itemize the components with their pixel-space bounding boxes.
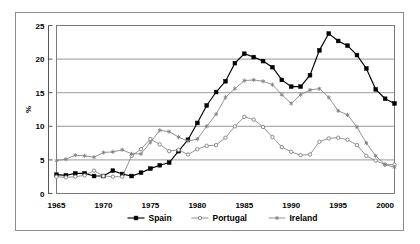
legend-label: Ireland (290, 213, 318, 223)
data-point-marker (327, 32, 331, 36)
y-tick-label: 10 (36, 122, 45, 131)
chart-figure: 0510152025 19651970197519801985199019952… (0, 0, 420, 244)
series-spain (55, 32, 397, 178)
x-tick-label: 1965 (48, 201, 66, 210)
data-point-marker (365, 154, 368, 157)
data-point-marker (317, 48, 321, 52)
series-line (57, 34, 395, 176)
data-point-marker (252, 118, 255, 121)
data-point-marker (318, 140, 321, 143)
data-point-marker (290, 150, 293, 153)
data-point-marker (139, 147, 142, 150)
data-point-marker (139, 171, 143, 175)
y-tick-label: 5 (40, 156, 45, 165)
y-tick-label: 20 (36, 55, 45, 64)
x-tick-label: 1970 (95, 201, 113, 210)
data-point-marker (205, 144, 208, 147)
data-point-marker (130, 174, 134, 178)
data-point-marker (198, 216, 201, 219)
x-tick-label: 1995 (329, 201, 347, 210)
data-point-marker (243, 115, 246, 118)
data-point-marker (55, 175, 58, 178)
y-tick-label: 15 (36, 89, 45, 98)
data-point-marker (134, 216, 138, 220)
data-point-marker (167, 149, 170, 152)
data-point-marker (261, 125, 264, 128)
data-point-marker (92, 169, 95, 172)
y-tick-label: 0 (40, 190, 45, 199)
data-point-marker (74, 175, 77, 178)
x-tick-label: 2000 (376, 201, 394, 210)
data-point-marker (299, 153, 302, 156)
data-point-marker (336, 136, 339, 139)
data-point-marker (280, 78, 284, 82)
data-point-marker (364, 67, 368, 71)
plot-border-rect (57, 26, 395, 194)
y-axis-title-text: % (24, 106, 33, 113)
data-point-marker (233, 61, 237, 65)
data-point-marker (214, 90, 218, 94)
y-axis-title: % (24, 106, 33, 113)
series-ireland (55, 78, 397, 170)
data-point-marker (393, 102, 397, 106)
line-chart: 0510152025 19651970197519801985199019952… (0, 0, 420, 244)
data-point-marker (308, 73, 312, 77)
data-point-marker (336, 39, 340, 43)
data-point-marker (158, 143, 161, 146)
legend-item-portugal[interactable]: Portugal (192, 213, 247, 223)
y-tick-label: 25 (36, 22, 45, 31)
legend-item-spain[interactable]: Spain (128, 213, 172, 223)
y-axis-line (49, 26, 53, 195)
y-axis-tick-labels: 0510152025 (36, 22, 45, 199)
data-point-marker (83, 174, 86, 177)
data-point-marker (186, 153, 189, 156)
data-point-marker (327, 137, 330, 140)
data-point-marker (346, 44, 350, 48)
data-point-marker (205, 104, 209, 108)
data-point-marker (214, 143, 217, 146)
data-point-marker (196, 147, 199, 150)
data-point-marker (374, 87, 378, 91)
x-tick-label: 1980 (188, 201, 206, 210)
data-point-marker (111, 175, 114, 178)
data-point-marker (224, 79, 228, 83)
x-tick-label: 1975 (141, 201, 159, 210)
data-point-marker (224, 136, 227, 139)
legend-label: Portugal (213, 213, 247, 223)
data-point-marker (102, 174, 105, 177)
data-point-marker (233, 125, 236, 128)
data-point-marker (177, 148, 180, 151)
data-point-marker (280, 145, 283, 148)
data-point-marker (355, 143, 358, 146)
data-point-marker (289, 85, 293, 89)
series-portugal (55, 115, 396, 179)
data-point-marker (261, 59, 265, 63)
data-point-marker (167, 161, 171, 165)
data-point-marker (252, 55, 256, 59)
data-point-marker (271, 135, 274, 138)
data-point-marker (346, 138, 349, 141)
chart-legend: SpainPortugalIreland (128, 213, 318, 223)
data-point-marker (64, 176, 67, 179)
data-point-marker (158, 163, 162, 167)
data-point-marker (374, 159, 377, 162)
data-point-marker (242, 52, 246, 56)
data-point-marker (271, 65, 275, 69)
data-point-marker (148, 167, 152, 171)
plot-area-border (57, 26, 395, 194)
data-point-marker (195, 121, 199, 125)
x-tick-label: 1990 (282, 201, 300, 210)
data-point-marker (308, 153, 311, 156)
data-point-marker (111, 169, 115, 173)
data-point-marker (177, 135, 181, 139)
data-series-group (55, 32, 397, 179)
x-axis-tick-labels: 19651970197519801985199019952000 (48, 201, 395, 210)
legend-item-ireland[interactable]: Ireland (269, 213, 318, 223)
data-point-marker (121, 175, 124, 178)
data-point-marker (383, 97, 387, 101)
data-point-marker (355, 53, 359, 57)
legend-label: Spain (149, 213, 172, 223)
gridlines-group (57, 59, 395, 160)
x-tick-label: 1985 (235, 201, 253, 210)
data-point-marker (299, 85, 303, 89)
